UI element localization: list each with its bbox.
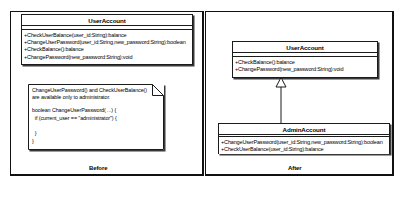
operation-item: +CheckUserBalance(user_id:String):balanc… bbox=[24, 32, 190, 39]
note-code-line: if (current_user == "administrator") { bbox=[32, 115, 160, 123]
uml-note-admin-restriction[interactable]: ChangeUserPassword() and CheckUserBalanc… bbox=[28, 84, 164, 150]
operation-item: +CheckBalance():balance bbox=[24, 46, 190, 53]
operation-item: +ChangePassword(new_password:String):voi… bbox=[235, 66, 375, 73]
note-code-line bbox=[32, 123, 160, 131]
note-text-line: ChangeUserPassword() and CheckUserBalanc… bbox=[32, 87, 160, 94]
class-name-adminaccount: AdminAccount bbox=[219, 124, 389, 135]
note-text-line: are available only to administrator. bbox=[32, 94, 160, 101]
uml-diagram-canvas: UserAccount +CheckUserBalance(user_id:St… bbox=[0, 0, 402, 199]
note-code-line: boolean ChangeUserPassword( ...) { bbox=[32, 107, 160, 115]
note-code-line: } bbox=[32, 130, 160, 138]
class-operations-useraccount-after: +CheckBalance():balance +ChangePassword(… bbox=[233, 57, 377, 74]
class-box-adminaccount[interactable]: AdminAccount +ChangeUserPassword(user_id… bbox=[218, 123, 390, 154]
operation-item: +ChangeUserPassword(user_id:String,new_p… bbox=[221, 139, 387, 146]
class-operations-useraccount-before: +CheckUserBalance(user_id:String):balanc… bbox=[22, 30, 192, 62]
note-code-line: } bbox=[32, 138, 160, 146]
class-box-useraccount-before[interactable]: UserAccount +CheckUserBalance(user_id:St… bbox=[21, 14, 193, 65]
note-body: ChangeUserPassword() and CheckUserBalanc… bbox=[28, 84, 164, 150]
operation-item: +ChangePassword(new_password:String):voi… bbox=[24, 54, 190, 61]
class-box-useraccount-after[interactable]: UserAccount +CheckBalance():balance +Cha… bbox=[232, 41, 378, 78]
class-name-useraccount-before: UserAccount bbox=[22, 15, 192, 26]
operation-item: +CheckBalance():balance bbox=[235, 59, 375, 66]
caption-before: Before bbox=[89, 165, 107, 171]
caption-after: After bbox=[288, 165, 302, 171]
operation-item: +ChangeUserPassword(user_id:String,new_p… bbox=[24, 39, 190, 46]
inheritance-arrow-icon bbox=[274, 76, 288, 125]
operation-item: +CheckUserBalance(user_id:String):balanc… bbox=[221, 146, 387, 153]
class-name-useraccount-after: UserAccount bbox=[233, 42, 377, 53]
class-operations-adminaccount: +ChangeUserPassword(user_id:String,new_p… bbox=[219, 137, 389, 154]
